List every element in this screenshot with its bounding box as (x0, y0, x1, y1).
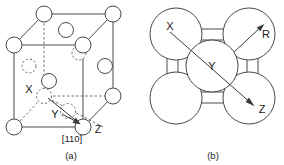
label-y-a: Y (51, 108, 59, 120)
caption-b: (b) (207, 150, 219, 161)
panel-b-close-packed-plane: X Y Z R (b) (142, 0, 284, 165)
caption-a: (a) (65, 150, 77, 161)
figure-root: X Y Z [110] (a) (0, 0, 284, 165)
panel-b-svg: X Y Z R (b) (142, 0, 284, 165)
panel-a-unit-cell: X Y Z [110] (a) (0, 0, 142, 165)
label-radius-r: R (262, 28, 270, 40)
label-x-b: X (166, 20, 174, 32)
panel-a-svg: X Y Z [110] (a) (0, 0, 142, 165)
label-z-b: Z (259, 103, 266, 115)
label-y-b: Y (208, 60, 216, 72)
label-x-a: X (25, 83, 33, 95)
label-z-a: Z (95, 123, 102, 135)
label-direction-110: [110] (62, 133, 82, 144)
